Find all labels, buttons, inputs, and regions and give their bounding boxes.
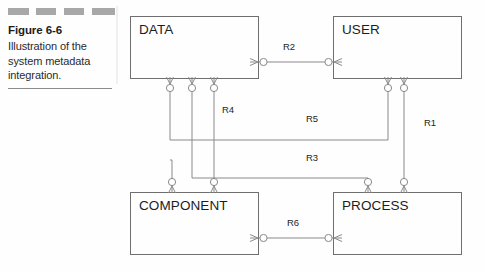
entity-label-component: COMPONENT	[139, 198, 228, 213]
connector-component-left	[168, 160, 175, 193]
relationship-line-r5	[166, 77, 391, 140]
er-diagram: DATA USER COMPONENT PROCESS R1 R2 R3 R4 …	[0, 0, 487, 272]
relationship-line-r2	[250, 58, 342, 65]
relationship-label-r1: R1	[424, 117, 436, 128]
relationship-label-r6: R6	[287, 217, 299, 228]
diagram-canvas	[0, 0, 487, 272]
relationship-line-r4	[210, 77, 217, 193]
relationship-label-r2: R2	[283, 41, 295, 52]
relationship-line-r3	[188, 77, 371, 193]
relationship-line-r1	[400, 77, 407, 193]
relationship-line-r6	[250, 234, 342, 241]
relationship-label-r3: R3	[306, 152, 318, 163]
figure-page: Figure 6-6 Illustration of the system me…	[0, 0, 487, 272]
entity-label-user: USER	[342, 22, 380, 37]
entity-label-process: PROCESS	[342, 198, 409, 213]
relationship-label-r5: R5	[306, 113, 318, 124]
relationship-label-r4: R4	[222, 104, 234, 115]
entity-label-data: DATA	[139, 22, 173, 37]
